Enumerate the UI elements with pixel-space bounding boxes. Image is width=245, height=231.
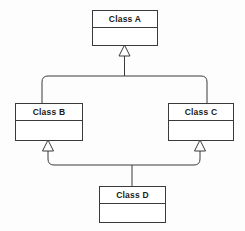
class-box-class-b[interactable]: Class B [16,104,83,141]
uml-class-diagram: Class A Class B Class C Class D [0,0,245,231]
generalization-d-to-b-c [43,140,206,186]
generalization-arrowhead-class-c [195,140,206,151]
connector-bus-to-class-b [48,151,132,165]
generalization-arrowhead-class-a [119,45,130,56]
class-box-class-d[interactable]: Class D [100,187,166,223]
class-name-class-d: Class D [116,190,149,200]
class-name-class-c: Class C [185,107,218,117]
diagram-canvas: Class A Class B Class C Class D [0,0,245,231]
class-box-class-c[interactable]: Class C [169,104,234,141]
connector-bus-to-class-c [132,151,200,165]
class-name-class-b: Class B [33,107,66,117]
generalization-arrowhead-class-b [43,140,54,151]
connector-class-b-to-bus [42,76,125,103]
generalization-b-c-to-a [42,45,207,103]
class-box-class-a[interactable]: Class A [93,11,158,46]
class-name-class-a: Class A [109,14,141,24]
connector-class-c-to-bus [125,76,208,103]
